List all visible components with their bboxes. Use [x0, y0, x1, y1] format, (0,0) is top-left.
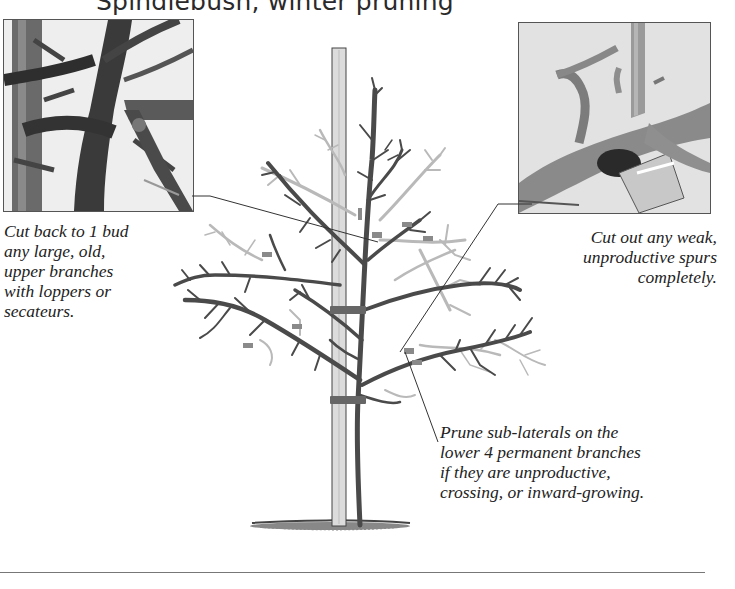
bottom-divider: [0, 572, 705, 573]
caption-line: with loppers or: [4, 281, 184, 301]
caption-line: Prune sub-laterals on the: [440, 422, 735, 442]
caption-line: unproductive spurs: [525, 247, 717, 267]
leader-line-left: [192, 196, 378, 242]
caption-line: completely.: [525, 267, 717, 287]
caption-line: upper branches: [4, 261, 184, 281]
caption-line: Cut out any weak,: [525, 227, 717, 247]
caption-prune-sub-laterals: Prune sub-laterals on the lower 4 perman…: [440, 422, 735, 502]
caption-line: lower 4 permanent branches: [440, 442, 735, 462]
caption-line: Cut back to 1 bud: [4, 221, 184, 241]
caption-cut-back-upper-branches: Cut back to 1 bud any large, old, upper …: [4, 221, 184, 321]
pruned-branches: [205, 130, 545, 397]
caption-line: crossing, or inward-growing.: [440, 482, 735, 502]
support-stake: [332, 48, 346, 526]
caption-line: if they are unproductive,: [440, 462, 735, 482]
caption-cut-out-weak-spurs: Cut out any weak, unproductive spurs com…: [525, 227, 717, 287]
caption-line: secateurs.: [4, 301, 184, 321]
ground-soil: [250, 520, 410, 530]
caption-line: any large, old,: [4, 241, 184, 261]
